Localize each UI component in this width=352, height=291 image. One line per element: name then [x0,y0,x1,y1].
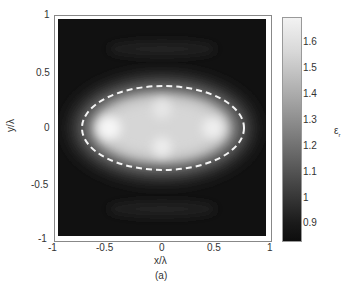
x-tick: 0 [159,243,165,253]
colorbar-tick: 1.3 [303,115,317,125]
y-tick: -1 [38,234,47,244]
heatmap [58,19,266,236]
y-tick: 0 [44,123,50,133]
colorbar-tick: 1.6 [303,37,317,47]
colorbar [282,17,302,242]
x-tick: -1 [48,243,57,253]
colorbar-tick: 1.1 [303,167,317,177]
x-tick: 1 [267,243,273,253]
colorbar-tick: 1.2 [303,141,317,151]
y-axis-label: y/λ [5,119,16,132]
colorbar-tick: 1 [303,193,309,203]
colorbar-tick: 0.9 [303,218,317,228]
x-axis-label: x/λ [154,255,167,266]
colorbar-tick: 1.5 [303,63,317,73]
y-tick: 1 [44,10,50,20]
figure-caption: (a) [155,270,167,281]
y-tick: 0.5 [36,68,50,78]
colorbar-label-sub: r [338,132,340,138]
x-tick: -0.5 [96,243,113,253]
heatmap-svg [58,19,266,236]
y-tick: -0.5 [31,180,48,190]
colorbar-label: εr [334,125,340,138]
colorbar-tick: 1.4 [303,89,317,99]
x-tick: 0.5 [207,243,221,253]
